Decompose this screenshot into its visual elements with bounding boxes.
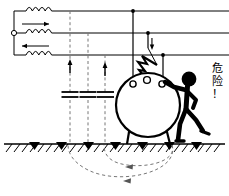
- earth-return-path-outer: [68, 145, 173, 177]
- transformer-bushing-2: [144, 77, 151, 84]
- transformer-bushing-1: [130, 81, 136, 87]
- drop-conductors-group: [131, 9, 165, 82]
- earth-surface: [4, 142, 225, 152]
- source-coils-group: [11, 7, 229, 55]
- capacitive-current-arrow-3: [103, 62, 108, 76]
- current-arrow-left: [22, 44, 49, 48]
- person-leg-back: [186, 109, 203, 131]
- ground-electrode-3: [83, 142, 94, 150]
- person-arm-back: [188, 92, 196, 108]
- earth-return-arrow-outer: [123, 178, 131, 183]
- capacitive-current-arrow-1: [68, 59, 73, 73]
- earth-return-paths: [68, 145, 173, 177]
- diagram-canvas: [0, 0, 229, 196]
- person-foot-back: [201, 131, 209, 134]
- source-terminal: [11, 30, 16, 35]
- stray-capacitance-group: [70, 11, 105, 144]
- junction-dot-3: [161, 53, 165, 57]
- current-arrow-right: [22, 22, 49, 26]
- danger-warning-label: 危 险 ！: [208, 62, 226, 101]
- ground-electrode-4: [110, 142, 121, 150]
- coil-bottom-winding: [26, 51, 52, 55]
- coil-bottom: [14, 51, 229, 55]
- earth-return-arrowheads: [123, 164, 133, 183]
- coil-top-winding: [26, 7, 52, 11]
- electrical-hazard-diagram: 危 险 ！: [0, 0, 229, 196]
- coil-middle: [17, 29, 229, 33]
- junction-dot-2: [146, 31, 150, 35]
- coil-top: [14, 7, 229, 11]
- ground-electrode-2: [56, 142, 67, 150]
- ground-electrode-6: [164, 142, 175, 150]
- fault-current-arrow-down: [150, 38, 154, 50]
- capacitor-plates-group: [62, 92, 115, 97]
- ground-electrode-1: [29, 142, 40, 150]
- junction-dot-1: [131, 9, 135, 13]
- coil-middle-winding: [26, 29, 52, 33]
